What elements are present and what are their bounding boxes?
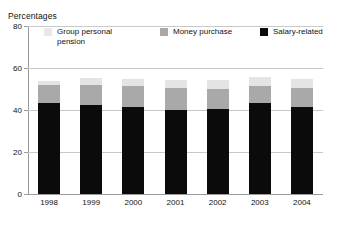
legend-item-salary-related[interactable]: Salary-related [260, 27, 323, 37]
y-axis-tick-label: 0 [8, 190, 22, 199]
x-axis-tick-label-2002: 2002 [209, 198, 227, 207]
bar-segment-group-personal-pension-2003 [249, 77, 271, 86]
legend-swatch-icon-group-personal-pension [44, 28, 52, 36]
bar-segment-group-personal-pension-1999 [80, 78, 102, 85]
bar-segment-group-personal-pension-2000 [122, 79, 144, 87]
y-tick-mark-60 [24, 68, 28, 69]
y-axis-tick-label: 80 [8, 22, 22, 31]
legend-label-group-personal-pension: Group personalpension [57, 27, 112, 46]
bar-segment-group-personal-pension-1998 [38, 81, 60, 85]
bar-segment-salary-related-2002 [207, 109, 229, 194]
bar-segment-money-purchase-2003 [249, 86, 271, 103]
x-axis-tick-label-1998: 1998 [40, 198, 58, 207]
y-axis-title: Percentages [8, 11, 57, 21]
bar-segment-group-personal-pension-2002 [207, 80, 229, 89]
x-axis-tick-label-2003: 2003 [251, 198, 269, 207]
bar-segment-money-purchase-1998 [38, 85, 60, 103]
legend-swatch-icon-salary-related [260, 28, 268, 36]
y-axis-tick-label: 60 [8, 64, 22, 73]
bar-segment-money-purchase-2002 [207, 89, 229, 110]
bar-segment-salary-related-1999 [80, 105, 102, 194]
x-axis-tick-label-1999: 1999 [82, 198, 100, 207]
bar-segment-money-purchase-2001 [165, 88, 187, 110]
gridline-0 [28, 194, 323, 195]
bar-segment-salary-related-2001 [165, 110, 187, 194]
x-axis-tick-label-2000: 2000 [124, 198, 142, 207]
bar-segment-money-purchase-2000 [122, 86, 144, 107]
y-tick-mark-0 [24, 194, 28, 195]
legend-label-salary-related: Salary-related [273, 27, 323, 37]
y-axis-tick-label: 40 [8, 106, 22, 115]
x-axis-tick-label-2004: 2004 [293, 198, 311, 207]
y-tick-mark-80 [24, 26, 28, 27]
x-axis-tick-label-2001: 2001 [167, 198, 185, 207]
legend-item-group-personal-pension[interactable]: Group personalpension [44, 27, 136, 46]
legend-swatch-icon-money-purchase [160, 28, 168, 36]
bar-segment-group-personal-pension-2001 [165, 80, 187, 88]
y-axis-tick-label: 20 [8, 148, 22, 157]
y-tick-mark-20 [24, 152, 28, 153]
chart-container: Percentages 1998199920002001200220032004… [0, 0, 337, 226]
legend-label-money-purchase: Money purchase [173, 27, 232, 37]
bar-segment-salary-related-2004 [291, 107, 313, 194]
y-tick-mark-40 [24, 110, 28, 111]
bar-segment-money-purchase-1999 [80, 85, 102, 105]
chart-legend: Group personalpension Money purchase Sal… [44, 27, 324, 53]
bar-segment-salary-related-1998 [38, 103, 60, 194]
legend-item-money-purchase[interactable]: Money purchase [160, 27, 232, 37]
bar-segment-salary-related-2000 [122, 107, 144, 194]
bar-segment-group-personal-pension-2004 [291, 79, 313, 87]
bar-segment-money-purchase-2004 [291, 88, 313, 107]
bar-segment-salary-related-2003 [249, 103, 271, 194]
